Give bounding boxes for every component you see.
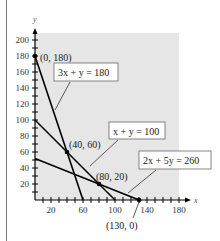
svg-text:60: 60	[79, 205, 89, 215]
svg-text:20: 20	[47, 205, 57, 215]
vertex-130-0	[137, 198, 142, 203]
svg-text:80: 80	[20, 131, 30, 141]
svg-text:120: 120	[16, 99, 30, 109]
svg-text:20: 20	[20, 179, 30, 189]
svg-text:40: 40	[20, 163, 30, 173]
svg-text:140: 140	[140, 205, 154, 215]
equation-label-2: x + y = 100	[113, 126, 159, 137]
vertex-80-20	[97, 182, 102, 187]
x-tick-labels: 20 60 100 140 180	[47, 205, 187, 215]
chart: y x 200 180 160 140 120 100 80 60 40	[0, 0, 220, 241]
x-axis-arrow-icon	[185, 198, 191, 203]
svg-text:180: 180	[16, 51, 30, 61]
vertex-label-0-180: (0, 180)	[40, 52, 72, 64]
vertex-label-40-60: (40, 60)	[69, 139, 101, 151]
y-axis-arrow-icon	[33, 28, 38, 34]
svg-text:100: 100	[16, 115, 30, 125]
svg-text:100: 100	[108, 205, 122, 215]
y-tick-labels: 200 180 160 140 120 100 80 60 40 20	[16, 35, 30, 189]
x-axis-label: x	[193, 196, 198, 205]
equation-label-1: 3x + y = 180	[58, 67, 109, 78]
svg-text:200: 200	[16, 35, 30, 45]
equation-label-3: 2x + 5y = 260	[143, 155, 199, 166]
svg-text:180: 180	[172, 205, 186, 215]
vertex-0-180	[33, 54, 38, 59]
vertex-label-130-0: (130, 0)	[106, 220, 138, 232]
y-axis-label: y	[32, 15, 37, 24]
vertex-40-60	[65, 150, 70, 155]
svg-text:160: 160	[16, 67, 30, 77]
leader-130-0	[133, 202, 139, 218]
svg-text:140: 140	[16, 83, 30, 93]
svg-text:60: 60	[20, 147, 30, 157]
vertex-label-80-20: (80, 20)	[96, 171, 128, 183]
